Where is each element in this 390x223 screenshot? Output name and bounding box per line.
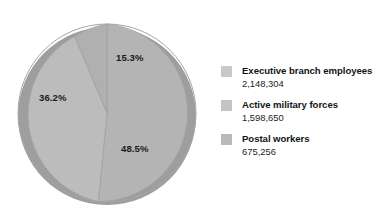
legend-text-group: Postal workers 675,256 [242, 133, 389, 158]
pie-chart-figure: 15.3% 36.2% 48.5% Executive branch emplo… [0, 0, 390, 223]
legend-label: Postal workers [242, 133, 389, 145]
legend-label: Executive branch employees [242, 65, 389, 77]
pie-slice-executive-branch-employees[interactable] [98, 24, 187, 202]
legend-swatch-icon [221, 134, 232, 145]
legend-value: 1,598,650 [242, 111, 389, 124]
legend-value: 2,148,304 [242, 77, 389, 90]
legend-label: Active military forces [242, 99, 389, 111]
pie-chart-graphic: 15.3% 36.2% 48.5% [17, 21, 197, 207]
legend-item-postal-workers[interactable]: Postal workers 675,256 [221, 133, 389, 159]
legend-text-group: Active military forces 1,598,650 [242, 99, 389, 124]
pie-slice-label-executive-branch-employees: 48.5% [121, 143, 148, 154]
legend-value: 675,256 [242, 145, 389, 158]
legend-item-executive-branch-employees[interactable]: Executive branch employees 2,148,304 [221, 65, 389, 91]
legend-swatch-icon [221, 100, 232, 111]
legend-swatch-icon [221, 66, 232, 77]
pie-slice-label-active-military-forces: 36.2% [39, 92, 66, 103]
chart-legend: Executive branch employees 2,148,304 Act… [221, 65, 389, 159]
legend-item-active-military-forces[interactable]: Active military forces 1,598,650 [221, 99, 389, 125]
legend-text-group: Executive branch employees 2,148,304 [242, 65, 389, 90]
pie-svg [17, 21, 197, 207]
pie-slice-label-postal-workers: 15.3% [116, 52, 143, 63]
